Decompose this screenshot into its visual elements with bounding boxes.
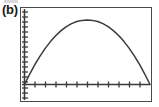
calculator-screen-frame <box>20 7 152 102</box>
figure-label: (b) <box>2 3 18 17</box>
figure-container: (b) <box>0 0 159 107</box>
